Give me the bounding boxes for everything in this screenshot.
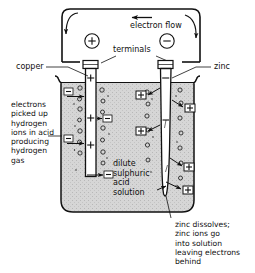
- electrolyte-label-line-1: dilute: [113, 159, 150, 169]
- terminal-positive: [85, 34, 99, 48]
- cathode-annotation-line-5: producing: [11, 137, 54, 146]
- cathode-annotation-line-1: electrons: [11, 100, 54, 109]
- anode-annotation-line-1: zinc dissolves;: [175, 220, 240, 229]
- diagram-canvas: electron flow terminals copper zinc elec…: [0, 0, 255, 273]
- copper-label: copper: [16, 62, 44, 72]
- anode-annotation-line-4: leaving electrons: [175, 248, 240, 257]
- terminal-negative: [160, 34, 174, 48]
- anode-annotation-line-3: into solution: [175, 239, 240, 248]
- electron-flow-label: electron flow: [130, 21, 182, 31]
- anode-annotation-line-5: behind: [175, 257, 240, 266]
- electrolyte-label-line-2: sulphuric: [113, 169, 150, 179]
- terminals-label: terminals: [113, 45, 151, 55]
- cathode-annotation: electrons picked up hydrogen ions in aci…: [11, 100, 54, 165]
- cathode-annotation-line-2: picked up: [11, 109, 54, 118]
- flow-arrow-right: [185, 15, 196, 38]
- electrolyte-label: dilute sulphuric acid solution: [113, 159, 150, 197]
- cathode-annotation-line-6: hydrogen: [11, 146, 54, 155]
- cathode-annotation-line-7: gas: [11, 156, 54, 165]
- electrolyte-label-line-3: acid: [113, 178, 150, 188]
- cathode-annotation-line-4: ions in acid: [11, 128, 54, 137]
- flow-arrow-left: [66, 13, 78, 34]
- zinc-label: zinc: [214, 62, 230, 72]
- anode-annotation-line-2: zinc ions go: [175, 229, 240, 238]
- cathode-annotation-line-3: hydrogen: [11, 119, 54, 128]
- anode-annotation: zinc dissolves; zinc ions go into soluti…: [175, 220, 240, 266]
- electrolyte-label-line-4: solution: [113, 188, 150, 198]
